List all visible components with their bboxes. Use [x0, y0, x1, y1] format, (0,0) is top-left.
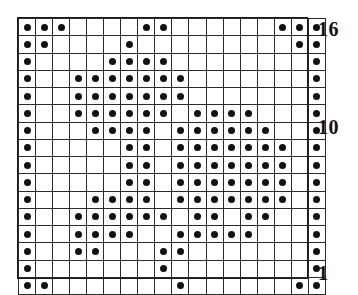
pattern-cell-filled[interactable] — [240, 208, 257, 225]
pattern-cell-empty[interactable] — [172, 36, 189, 53]
pattern-cell-empty[interactable] — [172, 53, 189, 70]
pattern-cell-empty[interactable] — [240, 19, 257, 36]
pattern-cell-empty[interactable] — [70, 36, 87, 53]
pattern-cell-filled[interactable] — [291, 277, 308, 294]
pattern-cell-filled[interactable] — [223, 105, 240, 122]
pattern-cell-empty[interactable] — [274, 277, 291, 294]
pattern-cell-filled[interactable] — [274, 174, 291, 191]
pattern-cell-empty[interactable] — [189, 70, 206, 87]
pattern-cell-empty[interactable] — [240, 243, 257, 260]
pattern-cell-empty[interactable] — [189, 277, 206, 294]
pattern-cell-filled[interactable] — [19, 226, 36, 243]
pattern-cell-empty[interactable] — [223, 53, 240, 70]
pattern-cell-filled[interactable] — [257, 208, 274, 225]
pattern-cell-empty[interactable] — [291, 88, 308, 105]
pattern-cell-filled[interactable] — [70, 105, 87, 122]
pattern-cell-empty[interactable] — [53, 88, 70, 105]
pattern-cell-empty[interactable] — [155, 191, 172, 208]
pattern-cell-empty[interactable] — [206, 260, 223, 277]
pattern-cell-empty[interactable] — [70, 157, 87, 174]
pattern-cell-empty[interactable] — [291, 157, 308, 174]
pattern-cell-empty[interactable] — [87, 36, 104, 53]
pattern-cell-filled[interactable] — [257, 191, 274, 208]
pattern-cell-empty[interactable] — [53, 122, 70, 139]
pattern-cell-empty[interactable] — [257, 53, 274, 70]
pattern-cell-filled[interactable] — [172, 226, 189, 243]
pattern-cell-filled[interactable] — [70, 243, 87, 260]
pattern-cell-empty[interactable] — [189, 19, 206, 36]
pattern-cell-empty[interactable] — [70, 191, 87, 208]
pattern-cell-filled[interactable] — [155, 70, 172, 87]
pattern-cell-empty[interactable] — [155, 277, 172, 294]
pattern-cell-filled[interactable] — [104, 70, 121, 87]
pattern-cell-empty[interactable] — [257, 19, 274, 36]
pattern-cell-filled[interactable] — [121, 36, 138, 53]
pattern-cell-filled[interactable] — [19, 174, 36, 191]
pattern-cell-empty[interactable] — [291, 191, 308, 208]
pattern-cell-empty[interactable] — [87, 53, 104, 70]
pattern-cell-filled[interactable] — [138, 19, 155, 36]
pattern-cell-filled[interactable] — [138, 208, 155, 225]
pattern-cell-filled[interactable] — [70, 70, 87, 87]
pattern-cell-filled[interactable] — [104, 88, 121, 105]
pattern-cell-empty[interactable] — [257, 243, 274, 260]
pattern-cell-empty[interactable] — [36, 157, 53, 174]
pattern-cell-filled[interactable] — [87, 226, 104, 243]
pattern-cell-empty[interactable] — [87, 139, 104, 156]
pattern-cell-filled[interactable] — [240, 157, 257, 174]
pattern-cell-filled[interactable] — [189, 105, 206, 122]
pattern-cell-empty[interactable] — [155, 174, 172, 191]
pattern-cell-empty[interactable] — [104, 157, 121, 174]
pattern-cell-empty[interactable] — [155, 122, 172, 139]
pattern-cell-empty[interactable] — [274, 70, 291, 87]
pattern-cell-empty[interactable] — [138, 226, 155, 243]
pattern-cell-filled[interactable] — [104, 226, 121, 243]
pattern-cell-empty[interactable] — [121, 19, 138, 36]
pattern-cell-filled[interactable] — [138, 157, 155, 174]
pattern-cell-filled[interactable] — [240, 105, 257, 122]
pattern-cell-empty[interactable] — [138, 243, 155, 260]
pattern-cell-filled[interactable] — [308, 157, 325, 174]
pattern-cell-filled[interactable] — [70, 88, 87, 105]
pattern-cell-filled[interactable] — [223, 226, 240, 243]
pattern-cell-filled[interactable] — [206, 157, 223, 174]
pattern-cell-filled[interactable] — [308, 191, 325, 208]
pattern-cell-empty[interactable] — [240, 277, 257, 294]
pattern-cell-filled[interactable] — [19, 70, 36, 87]
pattern-cell-empty[interactable] — [274, 243, 291, 260]
pattern-cell-empty[interactable] — [87, 260, 104, 277]
pattern-cell-filled[interactable] — [138, 105, 155, 122]
pattern-cell-filled[interactable] — [104, 53, 121, 70]
pattern-cell-empty[interactable] — [36, 226, 53, 243]
pattern-grid[interactable] — [18, 18, 326, 295]
pattern-cell-empty[interactable] — [70, 139, 87, 156]
pattern-cell-empty[interactable] — [291, 208, 308, 225]
pattern-cell-filled[interactable] — [240, 122, 257, 139]
pattern-cell-empty[interactable] — [223, 70, 240, 87]
pattern-cell-filled[interactable] — [138, 88, 155, 105]
pattern-cell-empty[interactable] — [223, 277, 240, 294]
pattern-cell-filled[interactable] — [87, 105, 104, 122]
pattern-cell-filled[interactable] — [104, 122, 121, 139]
pattern-cell-empty[interactable] — [70, 260, 87, 277]
pattern-cell-filled[interactable] — [155, 88, 172, 105]
pattern-cell-empty[interactable] — [70, 122, 87, 139]
pattern-cell-filled[interactable] — [138, 139, 155, 156]
pattern-cell-empty[interactable] — [172, 19, 189, 36]
pattern-cell-empty[interactable] — [36, 122, 53, 139]
pattern-cell-empty[interactable] — [172, 208, 189, 225]
pattern-cell-filled[interactable] — [138, 174, 155, 191]
pattern-cell-filled[interactable] — [223, 157, 240, 174]
pattern-cell-empty[interactable] — [206, 243, 223, 260]
pattern-cell-empty[interactable] — [274, 53, 291, 70]
pattern-cell-filled[interactable] — [104, 105, 121, 122]
pattern-cell-filled[interactable] — [308, 139, 325, 156]
pattern-cell-filled[interactable] — [274, 19, 291, 36]
pattern-cell-empty[interactable] — [206, 53, 223, 70]
pattern-cell-empty[interactable] — [257, 105, 274, 122]
pattern-cell-filled[interactable] — [257, 174, 274, 191]
pattern-cell-empty[interactable] — [223, 260, 240, 277]
pattern-cell-filled[interactable] — [189, 157, 206, 174]
pattern-cell-filled[interactable] — [87, 88, 104, 105]
pattern-cell-empty[interactable] — [257, 88, 274, 105]
